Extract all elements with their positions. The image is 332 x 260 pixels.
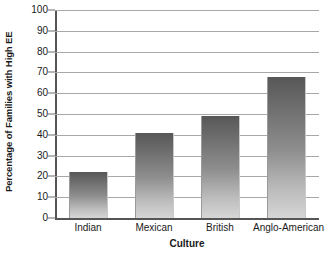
y-tick-label-30: 30: [37, 151, 48, 161]
y-tick-mark-10: [48, 197, 55, 198]
y-axis-title: Percentage of Families with High EE: [0, 0, 16, 224]
y-tick-mark-60: [48, 93, 55, 94]
y-axis-tick-labels: 0102030405060708090100: [16, 0, 52, 232]
x-tick-label-mexican: Mexican: [121, 221, 187, 235]
y-tick-label-40: 40: [37, 130, 48, 140]
x-tick-label-anglo-american: Anglo-American: [253, 221, 319, 235]
bar-indian: [69, 172, 108, 218]
y-tick-label-10: 10: [37, 192, 48, 202]
y-tick-mark-40: [48, 134, 55, 135]
y-tick-label-20: 20: [37, 171, 48, 181]
bars-layer: [55, 10, 319, 218]
y-tick-label-70: 70: [37, 67, 48, 77]
y-tick-mark-100: [48, 10, 55, 11]
x-tick-label-indian: Indian: [55, 221, 121, 235]
y-tick-label-80: 80: [37, 47, 48, 57]
y-tick-mark-30: [48, 155, 55, 156]
y-axis-title-label: Percentage of Families with High EE: [3, 32, 13, 193]
y-tick-mark-70: [48, 72, 55, 73]
bar-chart-figure: Percentage of Families with High EE 0102…: [0, 0, 332, 260]
y-tick-mark-90: [48, 30, 55, 31]
bar-mexican: [135, 133, 174, 218]
y-tick-label-100: 100: [31, 5, 48, 15]
x-axis-tick-labels: IndianMexicanBritishAnglo-American: [55, 221, 319, 237]
y-tick-mark-80: [48, 51, 55, 52]
x-tick-label-british: British: [187, 221, 253, 235]
gridline-0: [55, 218, 319, 220]
y-tick-mark-0: [48, 218, 55, 219]
y-tick-label-50: 50: [37, 109, 48, 119]
y-tick-label-60: 60: [37, 88, 48, 98]
y-tick-mark-20: [48, 176, 55, 177]
bar-anglo-american: [267, 77, 306, 218]
y-tick-mark-50: [48, 114, 55, 115]
bar-british: [201, 116, 240, 218]
plot-area: [55, 10, 319, 219]
x-axis-title: Culture: [55, 238, 319, 250]
y-tick-label-90: 90: [37, 26, 48, 36]
